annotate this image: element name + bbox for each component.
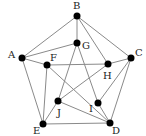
edge-D-J	[58, 101, 110, 123]
node-label-E: E	[33, 125, 40, 136]
node-label-F: F	[50, 52, 57, 63]
node-label-J: J	[56, 107, 61, 118]
node-A	[19, 55, 26, 62]
node-H	[105, 61, 112, 68]
node-E	[40, 121, 47, 128]
labels: ABCDEFGHIJ	[7, 0, 143, 136]
node-label-H: H	[103, 70, 112, 81]
edge-A-E	[22, 58, 43, 124]
node-I	[95, 100, 102, 107]
edge-F-H	[47, 64, 108, 65]
node-label-C: C	[135, 47, 143, 58]
edge-D-E	[43, 123, 110, 124]
graph-diagram: ABCDEFGHIJ	[0, 0, 146, 136]
node-J	[55, 98, 62, 105]
edge-G-I	[77, 43, 98, 103]
edge-E-F	[43, 65, 47, 124]
node-label-D: D	[112, 125, 120, 136]
edge-B-C	[77, 16, 131, 58]
node-label-G: G	[82, 40, 90, 51]
node-C	[128, 55, 135, 62]
node-G	[74, 40, 81, 47]
node-B	[74, 13, 81, 20]
edge-G-J	[58, 43, 77, 101]
node-label-A: A	[7, 49, 16, 60]
edge-A-F	[22, 58, 47, 65]
edge-E-J	[43, 101, 58, 124]
node-label-I: I	[89, 103, 93, 114]
edges	[22, 16, 131, 124]
node-label-B: B	[73, 0, 80, 11]
edge-C-D	[110, 58, 131, 123]
